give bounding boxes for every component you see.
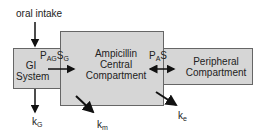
km-arrow-icon xyxy=(76,96,93,112)
arrows-layer xyxy=(0,0,260,133)
ke-arrow-icon xyxy=(156,92,176,105)
